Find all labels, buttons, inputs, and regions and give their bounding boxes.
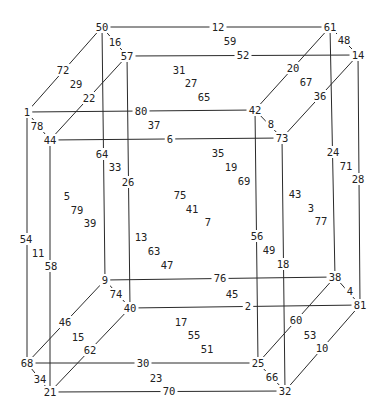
tesseract-diagram: 1252806762307016487887443466722220364662… xyxy=(0,0,385,419)
labels-layer: 1252806762307016487887443466722220364662… xyxy=(18,21,369,398)
vertex-label: 25 xyxy=(252,357,265,369)
face-label: 3 xyxy=(308,202,314,214)
edge-label: 28 xyxy=(352,173,365,185)
face-label: 51 xyxy=(201,343,214,355)
face-label: 31 xyxy=(173,64,186,76)
vertex-label: 61 xyxy=(324,21,337,33)
face-label: 69 xyxy=(238,175,251,187)
face-label: 77 xyxy=(315,215,328,227)
face-label: 35 xyxy=(212,147,225,159)
edge-label: 22 xyxy=(83,92,96,104)
edge-label: 52 xyxy=(237,49,250,61)
edge-label: 76 xyxy=(214,272,227,284)
edge-label: 16 xyxy=(109,36,122,48)
vertex-label: 1 xyxy=(24,106,30,118)
face-label: 75 xyxy=(174,189,187,201)
face-label: 27 xyxy=(185,77,198,89)
face-label: 67 xyxy=(300,76,313,88)
edge-label: 18 xyxy=(277,258,290,270)
face-label: 49 xyxy=(263,244,276,256)
edge-label: 78 xyxy=(31,120,44,132)
face-label: 63 xyxy=(148,245,161,257)
face-label: 13 xyxy=(135,231,148,243)
edge-label: 74 xyxy=(110,288,123,300)
edge-label: 66 xyxy=(266,371,279,383)
vertex-label: 57 xyxy=(121,50,134,62)
edge-label: 48 xyxy=(338,34,351,46)
face-label: 37 xyxy=(148,119,161,131)
face-label: 53 xyxy=(304,329,317,341)
edge-label: 58 xyxy=(45,260,58,272)
vertex-label: 73 xyxy=(276,132,289,144)
face-label: 59 xyxy=(224,35,237,47)
face-label: 19 xyxy=(225,161,238,173)
vertex-label: 68 xyxy=(21,357,34,369)
face-label: 55 xyxy=(188,329,201,341)
vertex-label: 9 xyxy=(102,274,108,286)
face-label: 71 xyxy=(340,160,353,172)
edge-label: 80 xyxy=(135,105,148,117)
face-label: 65 xyxy=(198,91,211,103)
edge-label: 62 xyxy=(84,344,97,356)
face-label: 17 xyxy=(175,316,188,328)
vertex-label: 32 xyxy=(279,385,292,397)
edge-label: 64 xyxy=(96,148,109,160)
edge-label: 2 xyxy=(245,300,251,312)
edge-label: 4 xyxy=(347,285,353,297)
face-label: 45 xyxy=(226,288,239,300)
vertex-label: 50 xyxy=(96,21,109,33)
vertex-label: 81 xyxy=(354,299,367,311)
vertex-label: 21 xyxy=(44,386,57,398)
face-label: 23 xyxy=(150,372,163,384)
vertex-label: 40 xyxy=(124,302,137,314)
diagram-canvas: 1252806762307016487887443466722220364662… xyxy=(0,0,385,419)
face-label: 29 xyxy=(70,78,83,90)
edge-label: 54 xyxy=(20,233,33,245)
edge-label: 46 xyxy=(59,316,72,328)
edge-label: 20 xyxy=(287,62,300,74)
edge-label: 12 xyxy=(212,21,225,33)
vertex-label: 42 xyxy=(249,104,262,116)
face-label: 11 xyxy=(32,247,45,259)
edge-label: 8 xyxy=(268,118,274,130)
face-label: 41 xyxy=(186,203,199,215)
edge-label: 36 xyxy=(314,90,327,102)
edge-label: 72 xyxy=(57,64,70,76)
edge-label: 10 xyxy=(316,342,329,354)
edge-label: 6 xyxy=(167,133,173,145)
edge-label: 30 xyxy=(137,357,150,369)
face-label: 47 xyxy=(161,259,174,271)
vertex-label: 38 xyxy=(329,271,342,283)
face-label: 43 xyxy=(289,188,302,200)
vertex-label: 14 xyxy=(352,49,365,61)
edge-label: 26 xyxy=(122,176,135,188)
edge-label: 34 xyxy=(34,373,47,385)
face-label: 5 xyxy=(64,190,70,202)
face-label: 39 xyxy=(84,217,97,229)
edge-label: 60 xyxy=(290,314,303,326)
edge-label: 56 xyxy=(251,230,264,242)
face-label: 15 xyxy=(72,331,85,343)
edge-label: 70 xyxy=(163,385,176,397)
face-label: 79 xyxy=(71,204,84,216)
face-label: 7 xyxy=(205,216,211,228)
vertex-label: 44 xyxy=(44,134,57,146)
face-label: 33 xyxy=(109,161,122,173)
edge-label: 24 xyxy=(327,146,340,158)
